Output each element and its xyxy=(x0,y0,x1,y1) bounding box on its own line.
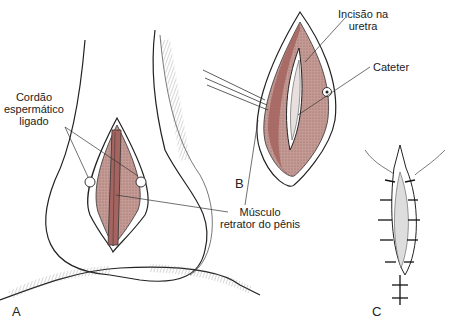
surgical-diagram: Cordão espermático ligado Incisão na ure… xyxy=(0,0,465,321)
label-line: retrator do pênis xyxy=(220,218,300,230)
label-line: ligado xyxy=(4,115,64,127)
panel-a-drawing xyxy=(0,30,260,300)
label-line: uretra xyxy=(338,20,388,32)
label-line: Incisão na xyxy=(338,8,388,20)
panel-c-drawing xyxy=(365,145,445,305)
label-incisao-uretra: Incisão na uretra xyxy=(338,8,388,32)
label-line: Músculo xyxy=(220,206,300,218)
panel-label-c: C xyxy=(372,304,381,319)
label-musculo-retrator: Músculo retrator do pênis xyxy=(220,206,300,230)
label-line: espermático xyxy=(4,103,64,115)
label-cordao-espermatico: Cordão espermático ligado xyxy=(4,91,64,127)
panel-label-a: A xyxy=(12,304,21,319)
panel-label-b: B xyxy=(235,176,244,191)
label-cateter: Cateter xyxy=(373,61,409,73)
illustration xyxy=(0,0,465,321)
panel-b-drawing xyxy=(203,12,370,205)
label-line: Cordão xyxy=(4,91,64,103)
